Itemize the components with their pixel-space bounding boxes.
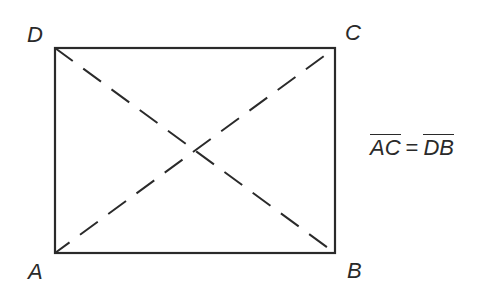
vertex-label-c: C [345, 20, 361, 45]
vertex-label-a: A [26, 259, 43, 284]
equals-sign: = [406, 137, 419, 159]
segment-equality-equation: AC=DB [370, 134, 454, 159]
vertex-label-d: D [27, 22, 43, 47]
vertex-label-b: B [347, 258, 362, 283]
segment-db: DB [423, 134, 454, 159]
segment-ac: AC [370, 134, 401, 159]
